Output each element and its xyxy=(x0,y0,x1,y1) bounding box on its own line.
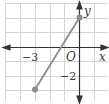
grid xyxy=(5,3,108,101)
y-axis-down-arrow-icon xyxy=(77,96,82,103)
endpoint-end xyxy=(77,15,83,21)
origin-label: O xyxy=(66,50,76,64)
x-tick-label: −3 xyxy=(22,51,38,64)
y-tick-label: −2 xyxy=(60,70,76,83)
x-axis xyxy=(3,45,108,50)
coordinate-plane: y x O −3 −2 xyxy=(0,0,109,104)
endpoint-start xyxy=(32,87,38,93)
x-axis-label: x xyxy=(99,50,106,64)
y-axis-label: y xyxy=(83,4,91,18)
x-axis-left-arrow-icon xyxy=(3,45,10,50)
